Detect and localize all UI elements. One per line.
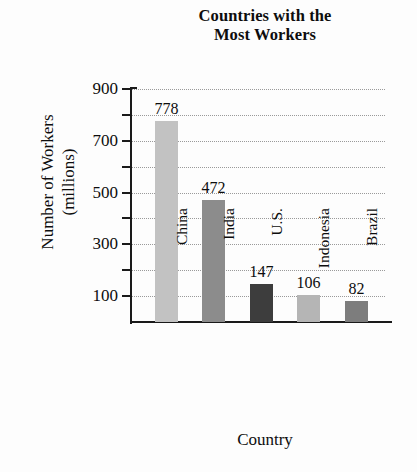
chart-title-line-1: Countries with the <box>150 6 380 25</box>
bar-value-label: 472 <box>182 180 245 196</box>
bar-value-label: 778 <box>135 101 198 117</box>
y-axis-tick-label: 900 <box>48 80 118 97</box>
x-axis-title: Country <box>165 430 365 450</box>
y-axis-title-line-2: (millions) <box>58 72 79 292</box>
chart-page: Countries with the Most Workers Number o… <box>0 0 417 472</box>
chart-title: Countries with the Most Workers <box>150 6 380 44</box>
x-axis-category-label: Indonesia <box>316 208 332 328</box>
x-axis-category-label: Brazil <box>364 208 380 328</box>
y-axis-title-line-1: Number of Workers <box>37 72 58 292</box>
y-axis-tick-label: 100 <box>48 287 118 304</box>
chart-title-line-2: Most Workers <box>150 25 380 44</box>
x-axis-category-label: China <box>174 208 190 328</box>
x-axis-category-label: India <box>221 208 237 328</box>
x-axis-category-label: U.S. <box>269 208 285 328</box>
y-axis-tick-label: 700 <box>48 132 118 149</box>
y-axis-title: Number of Workers (millions) <box>37 72 81 292</box>
y-axis-tick-label: 300 <box>48 235 118 252</box>
y-axis-tick-label: 500 <box>48 184 118 201</box>
